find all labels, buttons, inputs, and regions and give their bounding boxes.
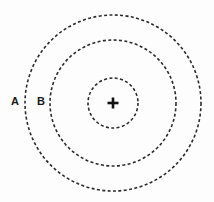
diagram-canvas [0,0,214,202]
zone-label-a: A [11,96,19,107]
concentric-circles-diagram: A B [0,0,214,202]
zone-label-b: B [37,96,45,107]
center-plus-cross-icon [108,98,119,109]
